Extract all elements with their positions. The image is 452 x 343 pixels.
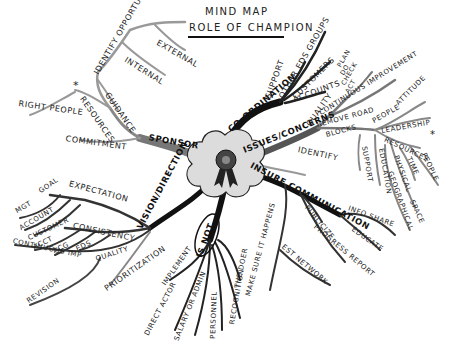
title-line-2: ROLE OF CHAMPION — [189, 22, 314, 33]
title-underline — [188, 36, 284, 38]
title-line-1: MIND MAP — [205, 6, 268, 17]
star-icon: * — [73, 80, 79, 91]
star-icon-issues: * — [430, 130, 436, 140]
